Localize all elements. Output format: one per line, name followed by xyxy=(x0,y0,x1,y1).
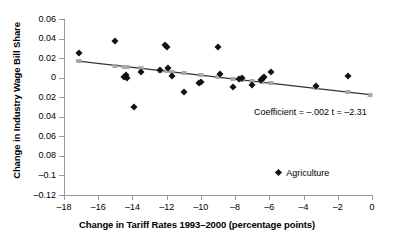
x-axis-title: Change in Tariff Rates 1993–2000 (percen… xyxy=(0,219,394,230)
x-tick-label: –2 xyxy=(323,203,353,212)
x-tick xyxy=(338,195,339,200)
data-point-fitted xyxy=(198,73,203,77)
y-tick-label: 0.06 xyxy=(16,15,56,24)
x-tick xyxy=(304,195,305,200)
x-tick-label: –4 xyxy=(289,203,319,212)
data-point-fitted xyxy=(113,64,118,68)
x-tick-label: –14 xyxy=(117,203,147,212)
legend-label: Agriculture xyxy=(286,168,329,178)
y-tick-label: 0.02 xyxy=(16,54,56,63)
x-tick-label: –12 xyxy=(152,203,182,212)
plot-area: 0.060.040.0200.020.040.060.08–0.1–0.12 –… xyxy=(64,19,372,195)
y-tick-label: 0.06 xyxy=(16,132,56,141)
x-tick-label: –10 xyxy=(186,203,216,212)
y-tick-label: 0.08 xyxy=(16,151,56,160)
x-tick xyxy=(235,195,236,200)
x-tick xyxy=(167,195,168,200)
x-tick xyxy=(269,195,270,200)
y-tick-label: 0.04 xyxy=(16,112,56,121)
x-tick xyxy=(98,195,99,200)
x-tick xyxy=(201,195,202,200)
data-point-fitted xyxy=(269,81,274,85)
x-tick xyxy=(372,195,373,200)
x-axis-line xyxy=(64,195,372,196)
x-tick-label: –8 xyxy=(220,203,250,212)
data-point-fitted xyxy=(77,59,82,63)
y-tick-label: –0.12 xyxy=(16,191,56,200)
y-tick-label: 0.02 xyxy=(16,93,56,102)
coefficient-annotation: Coefficient = –.002 t = –2.31 xyxy=(254,107,367,117)
data-point-fitted xyxy=(181,71,186,75)
data-point-fitted xyxy=(125,65,130,69)
legend-marker-icon xyxy=(275,169,282,176)
scatter-chart: Change in Industry Wage Bill Share 0.060… xyxy=(0,0,394,242)
x-tick xyxy=(64,195,65,200)
x-tick-label: –18 xyxy=(49,203,79,212)
y-tick-label: –0.1 xyxy=(16,171,56,180)
x-tick-label: –6 xyxy=(254,203,284,212)
y-tick-label: 0.04 xyxy=(16,34,56,43)
data-point-fitted xyxy=(368,93,373,97)
y-tick-label: 0 xyxy=(16,73,56,82)
data-point-fitted xyxy=(346,90,351,94)
x-tick xyxy=(132,195,133,200)
x-tick-label: 0 xyxy=(357,203,387,212)
x-tick-label: –16 xyxy=(83,203,113,212)
chart-legend: Agriculture xyxy=(276,168,329,178)
